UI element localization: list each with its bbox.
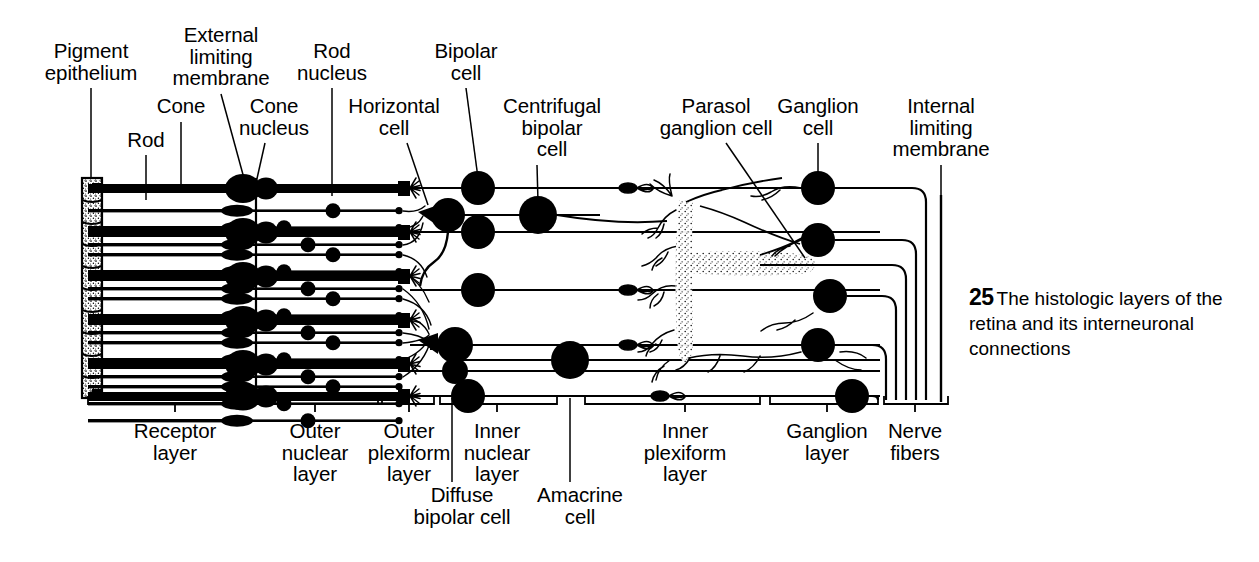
label-centrifugal-bipolar-cell: Centrifugal bipolar cell [503,95,601,160]
label-amacrine-cell: Amacrine cell [537,484,623,527]
layer-label-outer-plexiform-layer: Outer plexiform layer [368,420,450,485]
label-pigment-epithelium: Pigment epithelium [45,40,137,83]
layer-label-inner-plexiform-layer: Inner plexiform layer [644,420,726,485]
layer-label-outer-nuclear-layer: Outer nuclear layer [282,420,349,485]
label-rod-nucleus: Rod nucleus [297,40,367,83]
label-internal-limiting-membrane: Internal limiting membrane [892,95,989,160]
inner-plexiform-arborizations [619,174,685,401]
label-horizontal-cell: Horizontal cell [348,95,439,138]
photoreceptor-array [88,174,410,428]
label-diffuse-bipolar-cell: Diffuse bipolar cell [414,484,511,527]
label-cone: Cone [157,95,206,117]
label-bipolar-cell: Bipolar cell [434,40,497,83]
parasol-ganglion-cell [675,178,818,362]
label-rod: Rod [127,129,164,151]
layer-label-receptor-layer: Receptor layer [134,420,216,463]
ganglion-cells-and-nerve-fibers [676,171,926,413]
label-cone-nucleus: Cone nucleus [239,95,309,138]
layer-label-nerve-fibers: Nerve fibers [888,420,942,463]
retina-histology-figure: Pigment epitheliumRodConeExternal limiti… [0,0,1259,562]
figure-caption: 25The histologic layers of the retina an… [969,283,1249,361]
layer-label-inner-nuclear-layer: Inner nuclear layer [464,420,531,485]
figure-caption-text: The histologic layers of the retina and … [969,288,1223,359]
label-external-limiting-membrane: External limiting membrane [172,24,269,89]
figure-number: 25 [969,284,994,310]
label-ganglion-cell: Ganglion cell [777,95,858,138]
layer-label-ganglion-layer: Ganglion layer [786,420,867,463]
label-parasol-ganglion-cell: Parasol ganglion cell [660,95,773,138]
